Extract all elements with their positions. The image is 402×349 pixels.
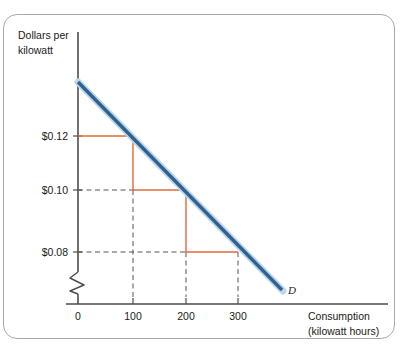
x-tick-label-0: 0 xyxy=(75,310,81,322)
x-axis-title-line1: Consumption xyxy=(308,310,370,322)
y-axis-title-line2: kilowatt xyxy=(18,44,53,56)
x-tick-label-200: 200 xyxy=(177,310,195,322)
dashed-guides xyxy=(78,190,238,297)
y-tick-label-012: $0.12 xyxy=(42,130,68,142)
demand-curve-label: D xyxy=(287,284,296,296)
x-tick-label-300: 300 xyxy=(229,310,247,322)
y-axis-title-line1: Dollars per xyxy=(18,29,69,41)
demand-curve-chart: D $0.12 $0.10 $0.08 0 100 200 300 Dollar… xyxy=(0,0,402,349)
x-axis-title-line2: (kilowatt hours) xyxy=(308,325,379,337)
demand-curve-line xyxy=(78,82,283,291)
step-schedule-line xyxy=(78,136,238,252)
figure-panel: D $0.12 $0.10 $0.08 0 100 200 300 Dollar… xyxy=(0,0,402,349)
step-polyline xyxy=(78,136,238,252)
demand-curve-core xyxy=(78,82,282,290)
y-tick-label-010: $0.10 xyxy=(42,184,68,196)
x-tick-marks xyxy=(133,298,238,304)
x-tick-label-100: 100 xyxy=(124,310,142,322)
y-tick-label-008: $0.08 xyxy=(42,246,68,258)
y-axis-break-icon xyxy=(70,272,84,294)
axes-group xyxy=(66,32,388,304)
